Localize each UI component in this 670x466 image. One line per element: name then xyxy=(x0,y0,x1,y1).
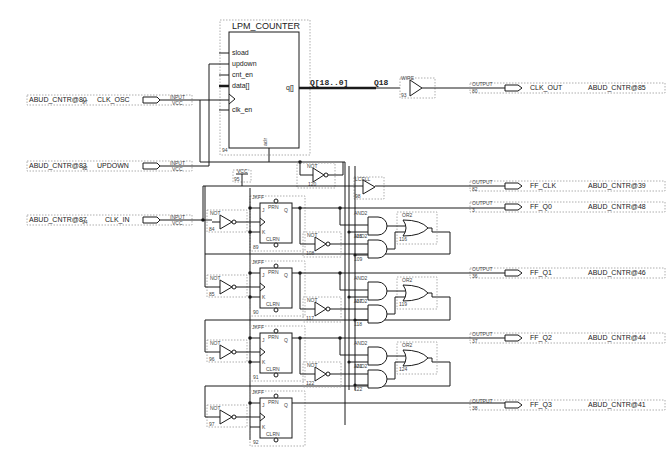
svg-text:124: 124 xyxy=(399,366,408,372)
svg-text:FF_Q2: FF_Q2 xyxy=(530,334,552,342)
svg-text:Q: Q xyxy=(284,207,288,213)
output-pin-icon xyxy=(505,270,522,276)
and-icon xyxy=(368,217,387,235)
svg-text:VCC: VCC xyxy=(237,168,248,174)
svg-text:NOT: NOT xyxy=(210,405,221,411)
svg-text:PRN: PRN xyxy=(268,269,279,275)
svg-text:PRN: PRN xyxy=(268,399,279,405)
svg-text:92: 92 xyxy=(82,165,88,171)
input-pin-icon xyxy=(143,217,160,223)
svg-text:109: 109 xyxy=(354,256,363,262)
svg-text:AND2: AND2 xyxy=(354,210,368,216)
port-aclr: aclr xyxy=(262,138,268,146)
counter-instance: 94 xyxy=(222,147,228,153)
svg-text:NOT: NOT xyxy=(307,232,318,238)
svg-text:AND2: AND2 xyxy=(354,298,368,304)
output-pin-icon xyxy=(505,402,522,408)
svg-text:OUTPUT: OUTPUT xyxy=(472,200,493,206)
svg-text:92: 92 xyxy=(253,439,259,445)
bus-label: Q[18..0] xyxy=(310,78,348,87)
svg-text:PRN: PRN xyxy=(268,334,279,340)
output-pin-ff-q3[interactable]: OUTPUT 38 FF_Q3 ABUD_CNTR@41 xyxy=(470,398,665,411)
svg-text:CLRN: CLRN xyxy=(266,236,280,242)
and-icon xyxy=(368,305,387,323)
buffer-icon xyxy=(363,180,375,194)
pin-location: ABUD_CNTR@80 xyxy=(29,96,87,104)
port-q: q[] xyxy=(286,84,294,92)
lcell[interactable]: LCELL 98 xyxy=(354,176,384,199)
port-cnt-en: cnt_en xyxy=(232,71,253,79)
svg-text:NOT: NOT xyxy=(210,210,221,216)
svg-text:JKFF: JKFF xyxy=(252,389,264,395)
svg-text:AND2: AND2 xyxy=(354,233,368,239)
not-icon xyxy=(220,345,232,359)
svg-text:80: 80 xyxy=(472,88,478,94)
svg-text:89: 89 xyxy=(253,244,259,250)
svg-text:FF_CLK: FF_CLK xyxy=(530,182,556,190)
not-gate-85[interactable]: NOT 85 xyxy=(207,275,247,297)
port-data: data[] xyxy=(232,82,250,90)
svg-text:82: 82 xyxy=(472,186,478,192)
not-icon xyxy=(220,215,232,229)
svg-text:119: 119 xyxy=(399,301,407,307)
svg-text:90: 90 xyxy=(253,309,259,315)
svg-text:ABUD_CNTR@39: ABUD_CNTR@39 xyxy=(588,182,646,190)
not-gate-84[interactable]: NOT 84 xyxy=(207,210,247,232)
not-icon xyxy=(315,237,326,251)
output-pin-icon xyxy=(505,183,522,189)
svg-text:WIRE: WIRE xyxy=(401,75,415,81)
svg-text:118: 118 xyxy=(354,321,362,327)
and-icon xyxy=(368,282,387,300)
not-gate-96[interactable]: NOT 96 xyxy=(207,340,247,362)
svg-text:95: 95 xyxy=(234,176,240,182)
svg-text:NOT: NOT xyxy=(307,163,318,169)
not-icon xyxy=(313,168,324,182)
svg-text:OR2: OR2 xyxy=(402,342,413,348)
svg-text:122: 122 xyxy=(306,380,315,386)
not-icon xyxy=(315,367,326,381)
svg-text:CLRN: CLRN xyxy=(266,366,280,372)
svg-text:FF_Q3: FF_Q3 xyxy=(530,401,552,409)
svg-text:91: 91 xyxy=(253,374,259,380)
svg-text:JKFF: JKFF xyxy=(252,259,264,265)
and-gate-109[interactable]: AND2 109 xyxy=(354,233,387,262)
svg-text:PRN: PRN xyxy=(268,204,279,210)
svg-text:FF_Q0: FF_Q0 xyxy=(530,203,552,211)
svg-text:94: 94 xyxy=(82,219,88,225)
svg-text:UPDOWN: UPDOWN xyxy=(97,162,129,169)
port-updown: updown xyxy=(232,60,257,68)
svg-text:JKFF: JKFF xyxy=(252,324,264,330)
lpm-counter[interactable]: LPM_COUNTER sload updown cnt_en data[] c… xyxy=(219,20,310,162)
svg-text:37: 37 xyxy=(472,338,478,344)
svg-text:OR2: OR2 xyxy=(402,277,413,283)
vcc-symbol: VCC 95 xyxy=(233,168,251,186)
svg-text:ABUD_CNTR@85: ABUD_CNTR@85 xyxy=(588,84,646,92)
output-pin-ff-q0[interactable]: OUTPUT 3 FF_Q0 ABUD_CNTR@48 xyxy=(470,200,665,213)
input-pin-clk-osc[interactable]: ABUD_CNTR@80 97 CLK_OSC INPUT VCC xyxy=(27,94,229,106)
svg-text:108: 108 xyxy=(306,250,315,256)
not-icon xyxy=(220,410,232,424)
and-icon xyxy=(368,347,387,365)
and-gate-118[interactable]: AND2 118 xyxy=(354,298,387,327)
wire-buffer[interactable]: WIRE 93 xyxy=(400,75,435,98)
output-pin-icon xyxy=(505,85,522,91)
input-pin-icon xyxy=(143,97,160,103)
svg-text:97: 97 xyxy=(82,99,88,105)
and-icon xyxy=(368,370,387,388)
svg-text:ABUD_CNTR@87: ABUD_CNTR@87 xyxy=(29,216,87,224)
port-clk-en: clk_en xyxy=(232,106,252,114)
schematic-canvas: LPM_COUNTER sload updown cnt_en data[] c… xyxy=(0,0,670,466)
svg-text:117: 117 xyxy=(306,315,314,321)
and-gate-122[interactable]: AND2 122 xyxy=(354,363,387,392)
svg-text:36: 36 xyxy=(472,273,478,279)
svg-text:JKFF: JKFF xyxy=(252,194,264,200)
svg-text:AND2: AND2 xyxy=(354,363,368,369)
svg-text:NOT: NOT xyxy=(307,297,318,303)
svg-text:116: 116 xyxy=(399,236,407,242)
svg-text:OUTPUT: OUTPUT xyxy=(472,179,493,185)
not-gate-97[interactable]: NOT 97 xyxy=(207,405,247,427)
svg-text:96: 96 xyxy=(209,356,215,362)
and-icon xyxy=(368,240,387,258)
or-icon xyxy=(403,285,428,301)
svg-text:Q: Q xyxy=(284,402,288,408)
